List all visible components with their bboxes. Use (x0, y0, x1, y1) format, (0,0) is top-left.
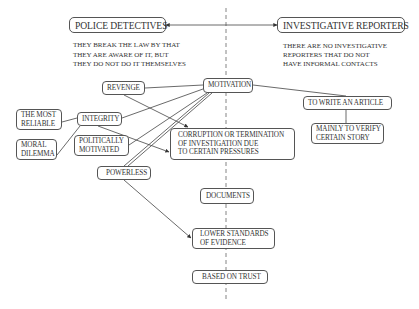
edge-integrity-reliable (62, 118, 77, 122)
node-revenge: REVENGE (102, 81, 145, 95)
node-police-detectives: POLICE DETECTIVES (69, 17, 166, 33)
node-corruption: CORRUPTION OR TERMINATION OF INVESTIGATI… (170, 128, 295, 160)
edge-motivation-article (253, 85, 346, 96)
concept-map: POLICE DETECTIVES INVESTIGATIVE REPORTER… (0, 0, 419, 309)
node-politically-motivated: POLITICALLY MOTIVATED (74, 135, 129, 156)
node-powerless: POWERLESS (97, 166, 151, 180)
node-mainly-verify: MAINLY TO VERIFY CERTAIN STORY (311, 123, 384, 144)
node-motivation: MOTIVATION (203, 78, 253, 93)
note-police-detectives: THEY BREAK THE LAW BY THAT THEY ARE AWAR… (73, 41, 186, 68)
node-based-on-trust: BASED ON TRUST (192, 270, 268, 284)
node-investigative-reporters: INVESTIGATIVE REPORTERS (277, 17, 405, 33)
node-lower-standards: LOWER STANDARDS OF EVIDENCE (192, 228, 275, 249)
node-moral-dilemma: MORAL DILEMMA (16, 139, 57, 160)
edge-revenge-motivation (145, 85, 203, 88)
edge-powerless-lower (124, 180, 191, 238)
note-investigative-reporters: THERE ARE NO INVESTIGATIVE REPORTERS THA… (283, 42, 387, 68)
node-most-reliable: THE MOST RELIABLE (16, 109, 62, 130)
node-to-write-article: TO WRITE AN ARTICLE (303, 96, 392, 110)
node-documents: DOCUMENTS (200, 188, 254, 204)
node-integrity: INTEGRITY (77, 112, 122, 126)
